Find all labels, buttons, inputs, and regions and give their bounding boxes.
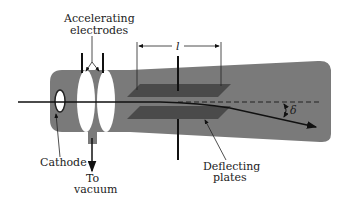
accelerating-electrode-1	[77, 70, 95, 132]
to-vacuum-label-line2: vacuum	[73, 183, 118, 196]
accelerating-leader-left	[86, 62, 92, 71]
accelerating-electrode-2	[97, 70, 115, 132]
crt-diagram: δ l Accelerating electrodes Cathode To v…	[0, 0, 337, 203]
deflection-angle-label: δ	[290, 104, 297, 117]
lower-deflecting-plate	[127, 106, 231, 119]
plate-length-label: l	[176, 40, 180, 53]
accelerating-electrodes-label-line2: electrodes	[70, 24, 129, 37]
accelerating-leader-right	[92, 62, 99, 71]
cathode-label: Cathode	[40, 156, 87, 169]
cathode	[55, 90, 65, 112]
deflecting-plates-label-line2: plates	[213, 171, 247, 184]
